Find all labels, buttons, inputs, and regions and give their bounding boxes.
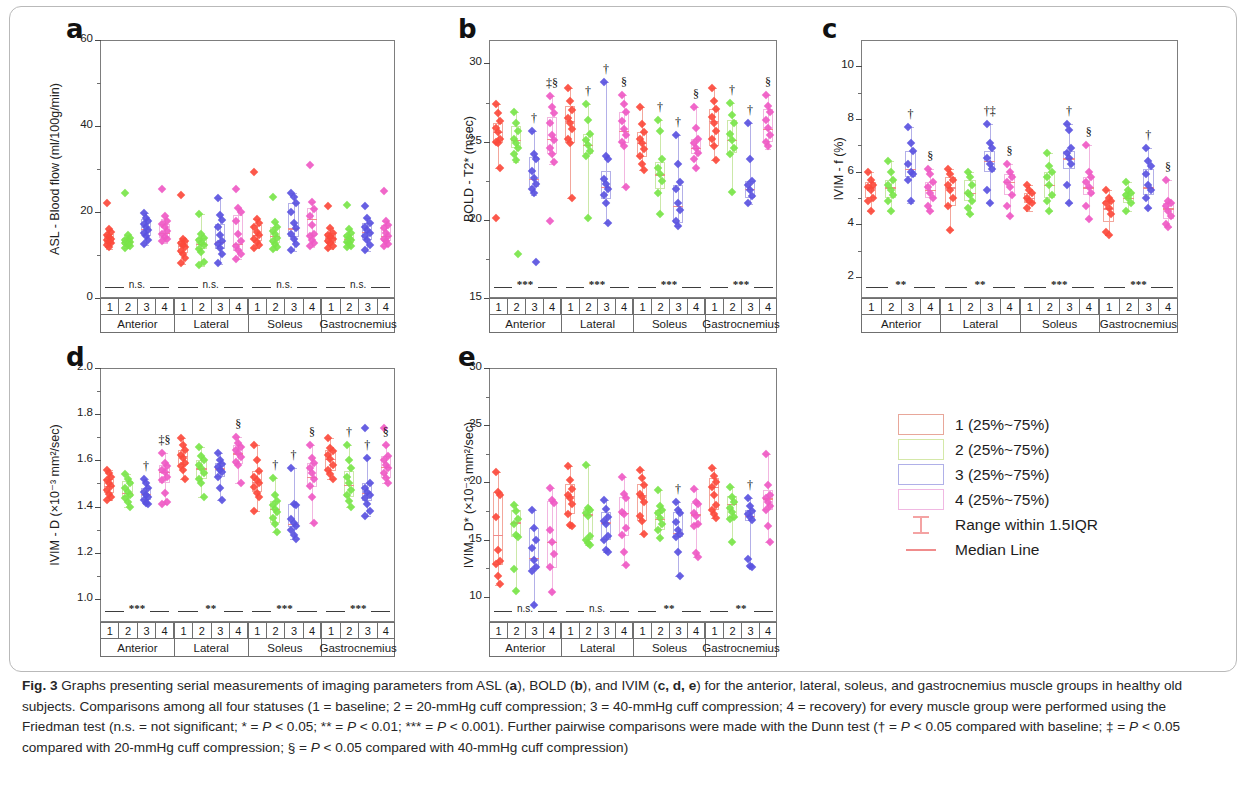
x-status-cell: 2 (579, 298, 597, 315)
pairwise-significance-mark: † (662, 115, 694, 130)
iqr-whisker-icon (898, 514, 944, 535)
x-group-label: Gastrocnemius (705, 315, 777, 333)
median-line-icon (898, 539, 944, 560)
legend-box-status4 (898, 489, 944, 510)
pairwise-significance-mark: † (1132, 128, 1164, 143)
y-minor-tick-mark (858, 93, 862, 94)
y-tick-mark (95, 507, 101, 508)
y-tick-label: 1.0 (60, 591, 93, 603)
y-minor-tick-mark (97, 83, 101, 84)
x-group-label: Gastrocnemius (1099, 315, 1178, 333)
significance-label: *** (647, 278, 691, 290)
pairwise-significance-mark: § (914, 149, 946, 164)
x-status-row-e: 1234123412341234 (489, 622, 777, 639)
legend-box-status3 (898, 464, 944, 485)
significance-label: *** (575, 278, 619, 290)
y-tick-label: 60 (60, 32, 93, 44)
x-group-label: Anterior (489, 315, 561, 333)
x-group-label: Lateral (561, 315, 633, 333)
x-status-cell: 3 (669, 622, 687, 639)
y-tick-label: 30 (449, 360, 482, 372)
legend-row-median: Median Line (898, 537, 1218, 562)
pairwise-significance-mark: †‡ (974, 104, 1006, 119)
x-group-label: Soleus (248, 315, 322, 333)
pairwise-significance-mark: † (130, 459, 162, 474)
x-status-cell: 3 (669, 298, 687, 315)
x-group-label: Anterior (861, 315, 940, 333)
x-group-label: Gastrocnemius (321, 639, 395, 657)
pairwise-significance-mark: § (370, 425, 402, 440)
significance-label: *** (1037, 278, 1081, 290)
x-status-cell: 2 (1119, 298, 1139, 315)
legend-label: 3 (25%~75%) (955, 466, 1049, 484)
x-status-cell: 2 (192, 298, 210, 315)
x-status-cell: 2 (1039, 298, 1059, 315)
x-status-cell: 2 (960, 298, 980, 315)
x-status-cell: 2 (651, 622, 669, 639)
x-status-cell: 4 (687, 298, 705, 315)
x-status-cell: 4 (377, 298, 395, 315)
x-status-cell: 1 (489, 622, 507, 639)
pairwise-significance-mark: § (608, 75, 640, 90)
pairwise-significance-mark: § (1152, 160, 1184, 175)
x-status-row-a: 1234123412341234 (100, 298, 395, 315)
x-status-cell: 1 (100, 622, 118, 639)
x-status-cell: 2 (340, 298, 358, 315)
x-group-label: Lateral (174, 639, 248, 657)
x-status-cell: 3 (284, 298, 302, 315)
x-status-cell: 4 (615, 622, 633, 639)
legend-row: 3 (25%~75%) (898, 462, 1218, 487)
x-status-cell: 4 (759, 622, 777, 639)
y-minor-tick-mark (97, 255, 101, 256)
caption-figure-number: Fig. 3 (22, 678, 58, 693)
significance-label: *** (1116, 278, 1160, 290)
box-e-anterior-4 (547, 501, 557, 569)
x-status-cell: 1 (633, 622, 651, 639)
significance-label: ** (647, 602, 691, 614)
x-status-cell: 3 (597, 622, 615, 639)
x-status-cell: 2 (266, 622, 284, 639)
x-status-cell: 4 (543, 622, 561, 639)
significance-label: n.s. (336, 279, 380, 290)
y-minor-tick-mark (858, 251, 862, 252)
y-tick-label: 4 (821, 216, 854, 228)
y-tick-mark (484, 142, 490, 143)
x-status-cell: 4 (687, 622, 705, 639)
significance-label: n.s. (189, 279, 233, 290)
x-group-label: Soleus (633, 315, 705, 333)
x-group-row-b: AnteriorLateralSoleusGastrocnemius (489, 315, 777, 333)
x-status-cell: 2 (118, 298, 136, 315)
x-status-cell: 2 (507, 298, 525, 315)
pairwise-significance-mark: † (895, 107, 927, 122)
y-tick-mark (856, 224, 862, 225)
significance-label: *** (115, 602, 159, 614)
x-status-cell: 4 (920, 298, 940, 315)
legend-row: 4 (25%~75%) (898, 487, 1218, 512)
y-tick-mark (95, 368, 101, 369)
x-status-cell: 4 (377, 622, 395, 639)
y-tick-mark (856, 172, 862, 173)
legend-row: 2 (25%~75%) (898, 437, 1218, 462)
y-tick-mark (484, 540, 490, 541)
y-minor-tick-mark (858, 198, 862, 199)
y-minor-tick-mark (97, 391, 101, 392)
y-minor-tick-mark (97, 530, 101, 531)
y-minor-tick-mark (486, 259, 490, 260)
x-status-cell: 1 (561, 622, 579, 639)
x-status-cell: 4 (1000, 298, 1020, 315)
x-status-cell: 1 (174, 298, 192, 315)
y-tick-label: 30 (449, 55, 482, 67)
pairwise-significance-mark: ‡§ (149, 433, 181, 448)
y-tick-mark (95, 414, 101, 415)
x-group-label: Anterior (489, 639, 561, 657)
legend-label: 1 (25%~75%) (955, 416, 1049, 434)
pairwise-significance-mark: § (994, 144, 1026, 159)
x-status-cell: 3 (597, 298, 615, 315)
x-status-cell: 2 (881, 298, 901, 315)
x-status-cell: 4 (229, 622, 247, 639)
x-status-cell: 1 (940, 298, 960, 315)
y-tick-label: 1.6 (60, 452, 93, 464)
legend-row-iqr: Range within 1.5IQR (898, 512, 1218, 537)
y-tick-mark (95, 126, 101, 127)
x-status-cell: 3 (284, 622, 302, 639)
